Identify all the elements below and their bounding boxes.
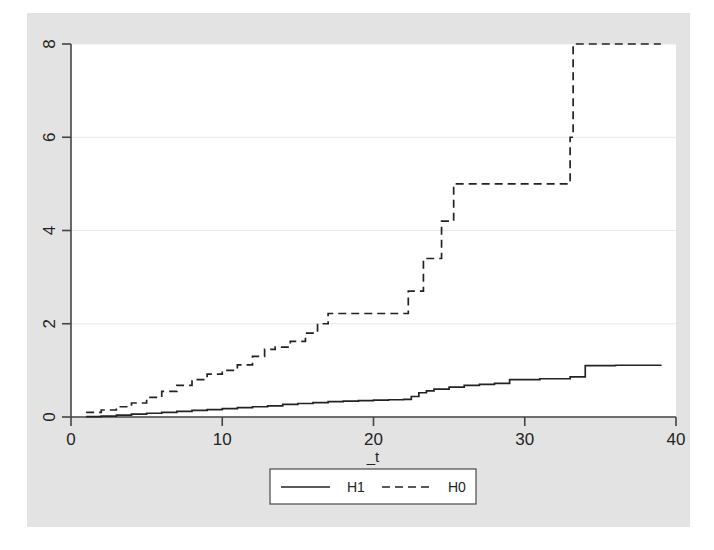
x-tick-label-40: 40 (667, 430, 686, 449)
y-tick-label-0: 0 (40, 412, 59, 421)
y-tick-label-4: 4 (40, 226, 59, 235)
x-axis-ticks (71, 417, 676, 426)
x-tick-label-30: 30 (515, 430, 534, 449)
y-axis-tick-labels: 02468 (40, 39, 59, 421)
x-tick-label-10: 10 (213, 430, 232, 449)
x-axis-title: _t (366, 448, 380, 465)
x-axis-tick-labels: 010203040 (66, 430, 685, 449)
y-tick-label-2: 2 (40, 319, 59, 328)
legend-label-h0: H0 (448, 479, 466, 495)
figure-root: 02468 010203040 _t H1 H0 (0, 0, 714, 550)
chart-legend: H1 H0 (270, 469, 476, 504)
x-tick-label-0: 0 (66, 430, 75, 449)
chart-canvas: 02468 010203040 _t H1 H0 (0, 0, 714, 550)
x-tick-label-20: 20 (364, 430, 383, 449)
y-axis-ticks (62, 44, 71, 417)
y-tick-label-8: 8 (40, 39, 59, 48)
legend-label-h1: H1 (347, 479, 365, 495)
y-tick-label-6: 6 (40, 133, 59, 142)
